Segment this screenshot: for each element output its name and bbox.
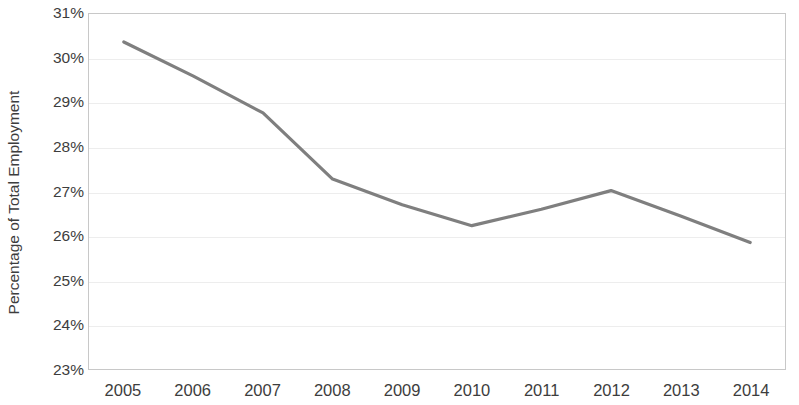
y-tick-label: 24% — [28, 318, 84, 334]
y-tick-label: 28% — [28, 139, 84, 155]
series-line — [124, 42, 750, 243]
data-series-layer — [89, 14, 785, 369]
y-axis-title: Percentage of Total Employment — [0, 0, 28, 405]
x-tick-label: 2006 — [174, 382, 211, 399]
line-chart: Percentage of Total Employment 23%24%25%… — [0, 0, 799, 405]
y-tick-label: 30% — [28, 50, 84, 66]
y-tick-label: 31% — [28, 5, 84, 21]
x-tick-label: 2008 — [314, 382, 351, 399]
y-tick-label: 29% — [28, 95, 84, 111]
x-tick-label: 2005 — [105, 382, 142, 399]
x-tick-label: 2014 — [733, 382, 770, 399]
y-axis-tick-labels: 23%24%25%26%27%28%29%30%31% — [28, 0, 84, 405]
plot-area — [88, 13, 786, 370]
y-tick-label: 25% — [28, 273, 84, 289]
x-tick-label: 2012 — [593, 382, 630, 399]
x-tick-label: 2007 — [244, 382, 281, 399]
x-axis-tick-labels: 2005200620072008200920102011201220132014 — [0, 372, 799, 405]
x-tick-label: 2009 — [384, 382, 421, 399]
x-tick-label: 2010 — [454, 382, 491, 399]
y-tick-label: 27% — [28, 184, 84, 200]
x-tick-label: 2011 — [524, 382, 559, 399]
x-tick-label: 2013 — [663, 382, 700, 399]
y-tick-label: 26% — [28, 228, 84, 244]
